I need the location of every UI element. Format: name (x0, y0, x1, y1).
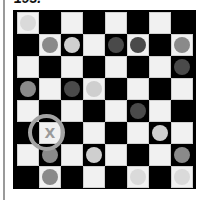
game-piece-medium[interactable] (20, 81, 36, 97)
board-square-r0c7[interactable] (171, 12, 193, 34)
board-square-r7c6[interactable] (149, 166, 171, 188)
x-mark-icon: X (40, 123, 60, 143)
board-square-r0c0[interactable] (17, 12, 39, 34)
board-square-r0c3[interactable] (83, 12, 105, 34)
game-piece-dark[interactable] (130, 103, 146, 119)
board-square-r5c7[interactable] (171, 122, 193, 144)
board-square-r6c3[interactable] (83, 144, 105, 166)
board-square-r3c3[interactable] (83, 78, 105, 100)
board-square-r7c3[interactable] (83, 166, 105, 188)
board-square-r6c7[interactable] (171, 144, 193, 166)
board-square-r5c6[interactable] (149, 122, 171, 144)
board-square-r1c4[interactable] (105, 34, 127, 56)
board-square-r4c3[interactable] (83, 100, 105, 122)
board-square-r2c6[interactable] (149, 56, 171, 78)
margin-rule (3, 0, 5, 200)
game-piece-dark[interactable] (130, 37, 146, 53)
board-square-r7c0[interactable] (17, 166, 39, 188)
board-square-r7c1[interactable] (39, 166, 61, 188)
board-square-r1c6[interactable] (149, 34, 171, 56)
board-square-r2c3[interactable] (83, 56, 105, 78)
board-square-r4c6[interactable] (149, 100, 171, 122)
board-square-r3c5[interactable] (127, 78, 149, 100)
board-square-r5c0[interactable] (17, 122, 39, 144)
board-square-r6c2[interactable] (61, 144, 83, 166)
board-square-r1c0[interactable] (17, 34, 39, 56)
board-square-r0c4[interactable] (105, 12, 127, 34)
puzzle-number: 193. (14, 0, 41, 5)
board-square-r3c6[interactable] (149, 78, 171, 100)
board-square-r0c5[interactable] (127, 12, 149, 34)
board-square-r3c4[interactable] (105, 78, 127, 100)
board-square-r5c2[interactable] (61, 122, 83, 144)
board-square-r3c7[interactable] (171, 78, 193, 100)
board-square-r4c4[interactable] (105, 100, 127, 122)
board-square-r4c7[interactable] (171, 100, 193, 122)
game-piece-medium[interactable] (42, 37, 58, 53)
board-square-r5c1[interactable]: X (39, 122, 61, 144)
game-piece-faint[interactable] (130, 169, 146, 185)
board-square-r6c0[interactable] (17, 144, 39, 166)
game-piece-light[interactable] (86, 81, 102, 97)
game-piece-medium[interactable] (174, 37, 190, 53)
game-piece-medium[interactable] (42, 147, 58, 163)
board-square-r2c1[interactable] (39, 56, 61, 78)
checkerboard-frame: X (13, 10, 196, 189)
board-square-r2c5[interactable] (127, 56, 149, 78)
board-square-r6c4[interactable] (105, 144, 127, 166)
board-square-r1c5[interactable] (127, 34, 149, 56)
board-square-r4c2[interactable] (61, 100, 83, 122)
game-piece-light[interactable] (64, 37, 80, 53)
board-square-r5c4[interactable] (105, 122, 127, 144)
board-square-r4c5[interactable] (127, 100, 149, 122)
board-square-r3c2[interactable] (61, 78, 83, 100)
board-square-r3c1[interactable] (39, 78, 61, 100)
game-piece-light[interactable] (152, 125, 168, 141)
board-square-r6c5[interactable] (127, 144, 149, 166)
board-square-r6c1[interactable] (39, 144, 61, 166)
board-square-r7c7[interactable] (171, 166, 193, 188)
board-square-r1c3[interactable] (83, 34, 105, 56)
game-piece-faint[interactable] (20, 15, 36, 31)
board-square-r7c4[interactable] (105, 166, 127, 188)
board-square-r7c2[interactable] (61, 166, 83, 188)
board-square-r1c7[interactable] (171, 34, 193, 56)
board-square-r0c6[interactable] (149, 12, 171, 34)
game-piece-dark[interactable] (64, 81, 80, 97)
board-square-r3c0[interactable] (17, 78, 39, 100)
board-square-r2c2[interactable] (61, 56, 83, 78)
game-piece-medium[interactable] (42, 169, 58, 185)
board-square-r0c1[interactable] (39, 12, 61, 34)
board-square-r6c6[interactable] (149, 144, 171, 166)
checkerboard: X (17, 12, 193, 188)
board-square-r5c5[interactable] (127, 122, 149, 144)
game-piece-medium[interactable] (174, 147, 190, 163)
game-piece-dark[interactable] (174, 59, 190, 75)
game-piece-faint[interactable] (174, 169, 190, 185)
board-square-r4c0[interactable] (17, 100, 39, 122)
game-piece-dark[interactable] (108, 37, 124, 53)
board-square-r5c3[interactable] (83, 122, 105, 144)
board-square-r1c1[interactable] (39, 34, 61, 56)
board-square-r2c7[interactable] (171, 56, 193, 78)
board-square-r0c2[interactable] (61, 12, 83, 34)
board-square-r7c5[interactable] (127, 166, 149, 188)
board-square-r1c2[interactable] (61, 34, 83, 56)
board-square-r2c4[interactable] (105, 56, 127, 78)
board-square-r4c1[interactable] (39, 100, 61, 122)
board-square-r2c0[interactable] (17, 56, 39, 78)
game-piece-light[interactable] (86, 147, 102, 163)
